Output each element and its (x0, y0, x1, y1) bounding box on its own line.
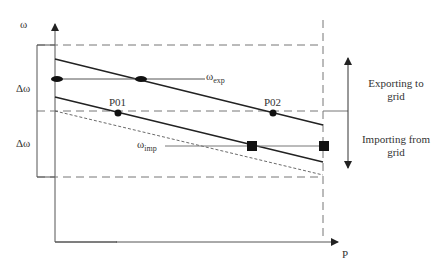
p01-marker (115, 110, 122, 117)
omega-exp-intersect-marker (135, 76, 147, 82)
import-droop-dashed (55, 111, 323, 175)
x-axis-label: P (342, 248, 348, 261)
omega-imp-intersect-marker (247, 141, 257, 151)
omega-imp-label: ωimp (137, 138, 157, 152)
omega-exp-start-marker (51, 76, 63, 82)
nominal-droop-line (55, 97, 323, 162)
exporting-to-grid-label: Exporting to grid (356, 77, 436, 103)
importing-from-grid-label: Importing from grid (353, 133, 439, 159)
omega-exp-label: ωexp (206, 70, 225, 84)
export-droop-line (55, 59, 323, 125)
delta-omega-lower-label: Δω (16, 137, 30, 150)
omega-imp-end-marker (319, 141, 329, 151)
y-axis-label: ω (20, 18, 27, 31)
delta-omega-upper-label: Δω (16, 82, 30, 95)
p02-label: P02 (264, 96, 281, 109)
p02-marker (270, 110, 277, 117)
p01-label: P01 (109, 96, 126, 109)
